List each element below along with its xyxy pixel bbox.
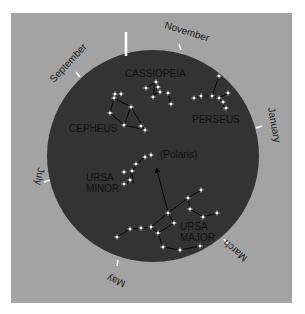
label-ursa-major-1: URSA [180,221,208,232]
label-ursa-minor-2: MINOR [86,183,119,194]
sky-disc [47,50,259,262]
label-ursa-major-2: MAJOR [180,232,215,243]
label-polaris: (Polaris) [160,149,197,160]
label-perseus: PERSEUS [192,114,240,125]
label-cepheus: CEPHEUS [69,123,118,134]
star-chart: November September January March May Jul… [0,0,305,314]
tick-may [117,260,118,266]
label-ursa-minor-1: URSA [86,172,114,183]
label-cassiopeia: CASSIOPEIA [125,68,186,79]
